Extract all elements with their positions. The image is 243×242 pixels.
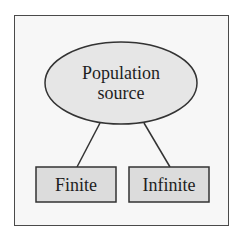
population-source-diagram: Population source Finite Infinite [0, 0, 243, 242]
edge-to-infinite [144, 123, 170, 167]
finite-label: Finite [55, 175, 97, 195]
edge-to-finite [77, 123, 100, 167]
population-source-label-line-1: Population [82, 63, 160, 83]
infinite-node: Infinite [129, 167, 209, 202]
infinite-label: Infinite [143, 175, 196, 195]
population-source-node: Population source [45, 42, 197, 124]
finite-node: Finite [36, 167, 116, 202]
population-source-label-line-2: source [98, 83, 145, 103]
